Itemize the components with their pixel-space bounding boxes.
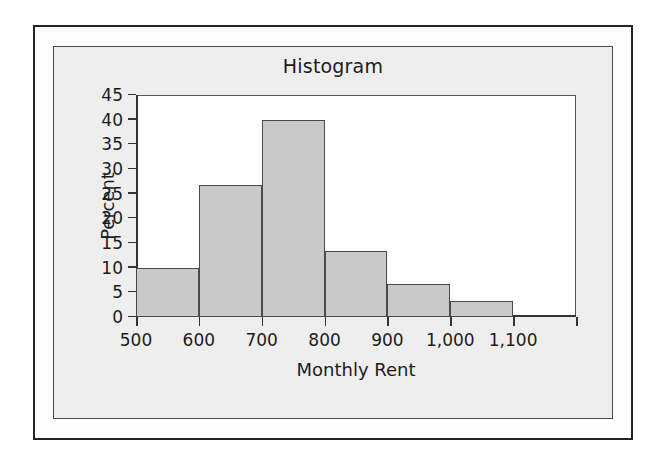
histogram-bar (136, 268, 199, 317)
y-axis-tick (128, 242, 136, 244)
y-axis-tick (128, 143, 136, 145)
y-axis-tick (128, 118, 136, 120)
y-axis-tick-label: 5 (112, 282, 123, 302)
y-axis-tick (128, 266, 136, 268)
x-axis-tick (576, 317, 578, 326)
y-axis-tick (128, 168, 136, 170)
plot-wrapper: 051015202530354045 5006007008009001,0001… (136, 95, 576, 317)
histogram-bar (387, 284, 450, 317)
y-axis-tick-label: 0 (112, 307, 123, 327)
x-axis-tick-label: 1,100 (489, 330, 538, 350)
x-axis-tick (513, 317, 515, 326)
x-axis-tick (325, 317, 327, 326)
x-axis-tick-label: 500 (120, 330, 152, 350)
histogram-bar (262, 120, 325, 317)
y-axis-tick (128, 217, 136, 219)
y-axis-tick (128, 94, 136, 96)
x-axis-tick (450, 317, 452, 326)
x-axis-tick-label: 700 (245, 330, 277, 350)
y-axis-tick (128, 316, 136, 318)
figure-inner-panel: Histogram 051015202530354045 50060070080… (53, 46, 613, 419)
x-axis-title: Monthly Rent (136, 359, 576, 380)
histogram-bar (325, 251, 388, 317)
y-axis-tick (128, 192, 136, 194)
x-axis-tick (136, 317, 138, 326)
chart-title: Histogram (54, 55, 612, 77)
histogram-bar (199, 185, 262, 317)
x-axis-tick-label: 900 (371, 330, 403, 350)
x-axis-tick (262, 317, 264, 326)
y-axis-tick-label: 45 (101, 85, 123, 105)
y-axis-title: Percent (97, 172, 118, 240)
x-axis-tick (199, 317, 201, 326)
y-axis-tick-label: 35 (101, 134, 123, 154)
x-axis-tick-label: 600 (183, 330, 215, 350)
x-axis-tick (387, 317, 389, 326)
y-axis-tick (128, 291, 136, 293)
figure-outer-frame: Histogram 051015202530354045 50060070080… (33, 25, 633, 440)
y-axis-tick-label: 40 (101, 110, 123, 130)
x-axis-tick-label: 1,000 (426, 330, 475, 350)
y-axis-tick-label: 10 (101, 258, 123, 278)
histogram-bar (450, 301, 513, 317)
x-axis-tick-label: 800 (308, 330, 340, 350)
